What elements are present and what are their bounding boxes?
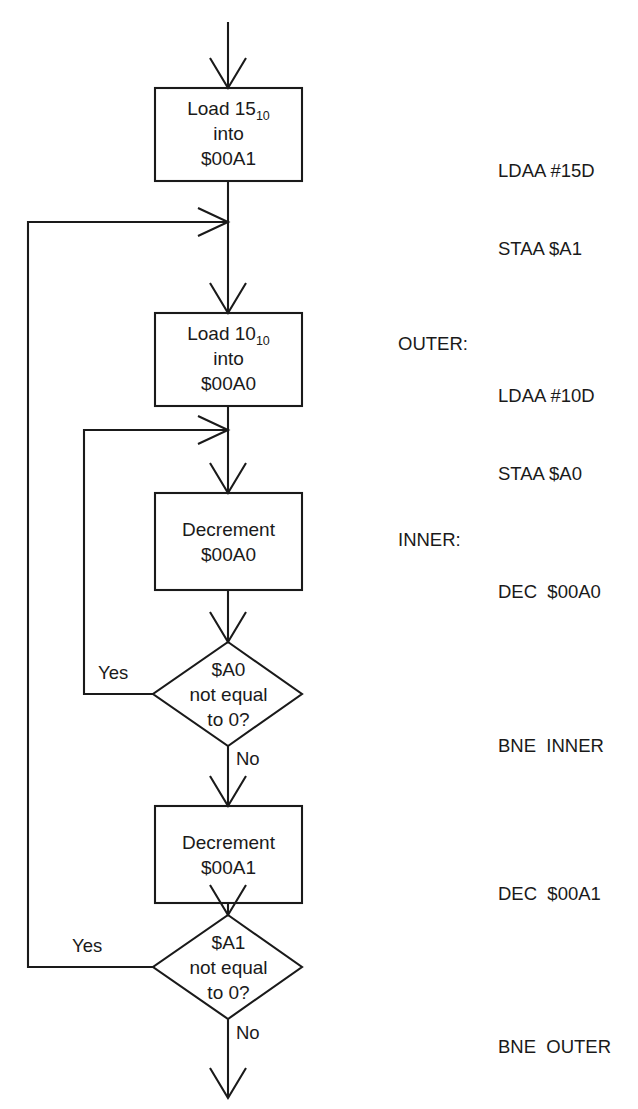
annotation-load-a1: LDAA #15D STAA $A1 [498,106,595,314]
annotation-bne-inner: BNE INNER [498,681,604,811]
node-load-a1-shape [155,88,302,181]
edge-label-inner-yes: Yes [98,662,128,684]
node-test-a1-shape [153,915,302,1019]
edge-label-outer-no: No [236,1022,260,1044]
node-dec-a1-shape [155,806,302,903]
edge-merge-to-load-a0 [210,222,246,313]
node-test-a0-shape [153,642,302,746]
edge-outer-loop-return [28,208,228,967]
node-load-a0-shape [155,313,302,406]
edge-entry [210,22,246,88]
edge-label-inner-no: No [236,748,260,770]
node-dec-a0-shape [155,493,302,590]
annotation-inner-label: INNER: [398,527,461,553]
edge-dec-a1-to-test-a1 [210,885,246,915]
annotation-dec-a1: DEC $00A1 [498,829,601,959]
annotation-dec-a0: DEC $00A0 [498,527,601,657]
annotation-bne-outer: BNE OUTER [498,982,611,1109]
edge-dec-a0-to-test-a0 [210,590,246,642]
flowchart-diagram: Load 1510 into $00A1 Load 1010 into $00A… [0,0,638,1109]
annotation-outer-label: OUTER: [398,331,468,357]
edge-inner-merge-to-dec-a0 [210,430,246,493]
edge-label-outer-yes: Yes [72,935,102,957]
annotation-load-a0: LDAA #10D STAA $A0 [498,331,595,539]
